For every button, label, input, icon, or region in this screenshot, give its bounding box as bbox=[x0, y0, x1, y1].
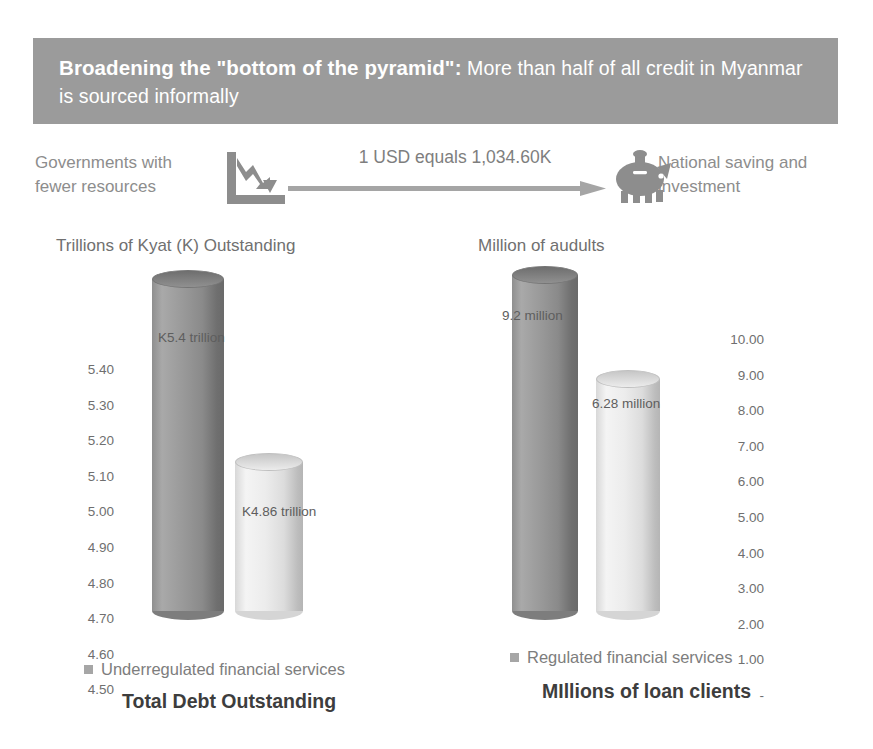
bar-data-label: 6.28 million bbox=[592, 396, 660, 411]
plot-area: 10.009.008.007.006.005.004.003.002.001.0… bbox=[450, 266, 870, 638]
chart-total-debt-outstanding: Trillions of Kyat (K) Outstanding 5.405.… bbox=[30, 228, 450, 698]
axis-tick-label: 4.70 bbox=[58, 611, 114, 626]
header-banner: Broadening the "bottom of the pyramid": … bbox=[33, 38, 838, 124]
chart-legend: Regulated financial services bbox=[510, 648, 732, 667]
plot-area: 5.405.305.205.105.004.904.804.704.604.50… bbox=[30, 266, 450, 638]
flow-diagram: Governments with fewer resources 1 USD e… bbox=[33, 143, 843, 223]
axis-tick-label: 6.00 bbox=[708, 474, 764, 489]
chart-subtitle: Trillions of Kyat (K) Outstanding bbox=[56, 236, 295, 256]
bar-data-label: K5.4 trillion bbox=[158, 330, 225, 345]
declining-chart-icon bbox=[223, 150, 289, 212]
axis-tick-label: 8.00 bbox=[708, 403, 764, 418]
flow-right-label: National saving and investment bbox=[658, 151, 858, 199]
bar-body bbox=[596, 379, 660, 611]
bar-cap-top bbox=[235, 453, 303, 471]
flow-left-label: Governments with fewer resources bbox=[35, 151, 200, 199]
legend-marker-icon bbox=[510, 653, 519, 662]
axis-tick-label: 5.30 bbox=[58, 398, 114, 413]
chart-millions-of-loan-clients: Million of audults 10.009.008.007.006.00… bbox=[450, 228, 870, 698]
axis-tick-label: 5.20 bbox=[58, 433, 114, 448]
axis-tick-label: 3.00 bbox=[708, 581, 764, 596]
exchange-rate-label: 1 USD equals 1,034.60K bbox=[305, 147, 605, 168]
axis-tick-label: 4.50 bbox=[58, 682, 114, 697]
axis-tick-label: 5.40 bbox=[58, 362, 114, 377]
bar-dark bbox=[152, 270, 224, 620]
banner-lead-text: Broadening the "bottom of the pyramid": bbox=[59, 56, 462, 79]
axis-tick-label: 5.10 bbox=[58, 469, 114, 484]
chart-subtitle: Million of audults bbox=[478, 236, 605, 256]
chart-footer-title: Total Debt Outstanding bbox=[122, 690, 336, 713]
chart-legend: Underregulated financial services bbox=[84, 660, 345, 679]
axis-tick-label: 9.00 bbox=[708, 368, 764, 383]
axis-tick-label: 7.00 bbox=[708, 439, 764, 454]
axis-tick-label: 4.80 bbox=[58, 576, 114, 591]
chart-footer-title: MIllions of loan clients bbox=[542, 680, 751, 703]
right-arrow-icon bbox=[288, 179, 608, 199]
axis-tick-label: 2.00 bbox=[708, 617, 764, 632]
axis-tick-label: 4.00 bbox=[708, 546, 764, 561]
bar-body bbox=[235, 462, 303, 611]
legend-marker-icon bbox=[84, 665, 93, 674]
axis-tick-label: 5.00 bbox=[58, 504, 114, 519]
legend-label: Regulated financial services bbox=[527, 648, 732, 666]
axis-tick-label: 5.00 bbox=[708, 510, 764, 525]
axis-tick-label: 4.90 bbox=[58, 540, 114, 555]
axis-tick-label: 10.00 bbox=[708, 332, 764, 347]
bar-light bbox=[235, 453, 303, 620]
banner-headline: Broadening the "bottom of the pyramid": … bbox=[59, 54, 812, 110]
legend-label: Underregulated financial services bbox=[101, 660, 345, 678]
bar-body bbox=[512, 275, 578, 611]
bar-data-label: 9.2 million bbox=[502, 308, 563, 323]
bar-data-label: K4.86 trillion bbox=[242, 504, 316, 519]
